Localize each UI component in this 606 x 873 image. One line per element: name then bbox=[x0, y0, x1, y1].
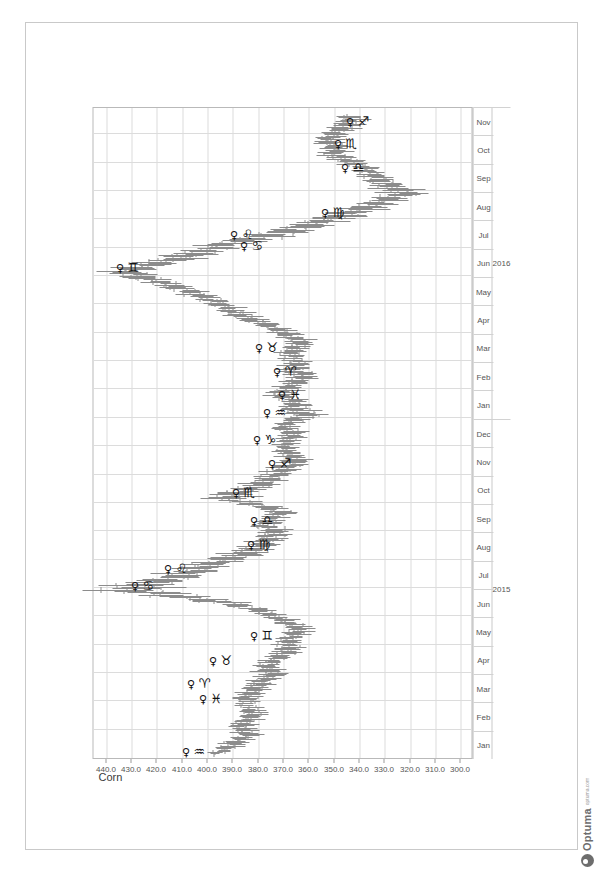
open-tick bbox=[213, 602, 214, 604]
month-tick-aug[interactable]: Aug bbox=[474, 192, 494, 220]
open-tick bbox=[416, 193, 417, 195]
astro-annotation-libra[interactable]: ♀ ♎ bbox=[250, 513, 273, 526]
venus-icon: ♀ bbox=[273, 365, 281, 378]
open-tick bbox=[390, 191, 391, 193]
open-tick bbox=[272, 480, 273, 482]
gridline bbox=[436, 108, 437, 758]
open-tick bbox=[258, 696, 259, 698]
month-label: Jan bbox=[477, 400, 490, 409]
month-label: Jun bbox=[477, 258, 490, 267]
month-tick-feb[interactable]: Feb bbox=[474, 362, 494, 390]
month-tick-feb[interactable]: Feb bbox=[474, 702, 494, 730]
price-axis-tick bbox=[105, 759, 106, 763]
open-tick bbox=[225, 751, 226, 753]
open-tick bbox=[274, 328, 275, 330]
astro-annotation-pisces[interactable]: ♀ ♓ bbox=[278, 387, 301, 400]
astro-annotation-taurus[interactable]: ♀ ♉ bbox=[255, 340, 278, 353]
open-tick bbox=[262, 506, 263, 508]
price-axis-tick bbox=[435, 759, 436, 763]
month-tick-nov[interactable]: Nov bbox=[474, 107, 494, 135]
open-tick bbox=[206, 568, 207, 570]
open-tick bbox=[294, 632, 295, 634]
open-tick bbox=[287, 426, 288, 428]
venus-icon: ♀ bbox=[209, 654, 217, 667]
open-tick bbox=[245, 695, 246, 697]
open-tick bbox=[363, 177, 364, 179]
price-axis-tick bbox=[359, 759, 360, 763]
month-tick-jun[interactable]: Jun bbox=[474, 248, 494, 276]
astro-annotation-capricorn[interactable]: ♀ ♑ bbox=[253, 432, 276, 445]
open-tick bbox=[240, 742, 241, 744]
astro-annotation-taurus[interactable]: ♀ ♉ bbox=[209, 653, 232, 666]
astro-annotation-virgo[interactable]: ♀ ♍ bbox=[247, 537, 270, 550]
open-tick bbox=[303, 377, 304, 379]
astro-annotation-sagittarius[interactable]: ♀ ♐ bbox=[268, 456, 291, 469]
zodiac-virgo-icon: ♍ bbox=[259, 536, 271, 551]
open-tick bbox=[100, 590, 101, 592]
month-tick-apr[interactable]: Apr bbox=[474, 305, 494, 333]
astro-annotation-pisces[interactable]: ♀ ♓ bbox=[199, 691, 222, 704]
astro-annotation-gemini[interactable]: ♀ ♊ bbox=[250, 628, 273, 641]
price-bar bbox=[254, 505, 283, 506]
month-tick-jul[interactable]: Jul bbox=[474, 220, 494, 248]
open-tick bbox=[294, 412, 295, 414]
open-tick bbox=[260, 323, 261, 325]
astro-annotation-libra[interactable]: ♀ ♎ bbox=[341, 160, 364, 173]
price-axis-label: 440.0 bbox=[96, 764, 116, 773]
astro-annotation-scorpio[interactable]: ♀ ♏ bbox=[232, 485, 255, 498]
open-tick bbox=[187, 597, 188, 599]
close-tick bbox=[196, 593, 197, 595]
month-tick-aug[interactable]: Aug bbox=[474, 532, 494, 560]
month-tick-jun[interactable]: Jun bbox=[474, 588, 494, 616]
open-tick bbox=[255, 690, 256, 692]
astro-annotation-sagittarius[interactable]: ♀ ♐ bbox=[346, 114, 369, 127]
month-tick-may[interactable]: May bbox=[474, 617, 494, 645]
month-tick-sep[interactable]: Sep bbox=[474, 503, 494, 531]
month-tick-apr[interactable]: Apr bbox=[474, 645, 494, 673]
open-tick bbox=[260, 477, 261, 479]
open-tick bbox=[198, 600, 199, 602]
astro-annotation-aquarius[interactable]: ♀ ♒ bbox=[182, 744, 205, 757]
month-label: Mar bbox=[477, 684, 491, 693]
month-tick-oct[interactable]: Oct bbox=[474, 135, 494, 163]
month-axis[interactable]: JanFebMarAprMayJunJulAugSepOctNovDecJanF… bbox=[473, 107, 493, 759]
price-axis-label: 360.0 bbox=[298, 764, 318, 773]
year-tick-2015[interactable]: 2015 bbox=[493, 418, 511, 758]
month-tick-may[interactable]: May bbox=[474, 277, 494, 305]
astro-annotation-leo[interactable]: ♀ ♌ bbox=[230, 227, 253, 240]
open-tick bbox=[183, 294, 184, 296]
month-tick-mar[interactable]: Mar bbox=[474, 673, 494, 701]
astro-annotation-gemini[interactable]: ♀ ♊ bbox=[116, 260, 139, 273]
close-tick bbox=[380, 194, 381, 196]
astro-annotation-virgo[interactable]: ♀ ♍ bbox=[321, 205, 344, 218]
open-tick bbox=[297, 357, 298, 359]
open-tick bbox=[168, 594, 169, 596]
month-tick-sep[interactable]: Sep bbox=[474, 163, 494, 191]
month-tick-jan[interactable]: Jan bbox=[474, 390, 494, 418]
venus-icon: ♀ bbox=[268, 457, 276, 470]
price-axis-tick bbox=[384, 759, 385, 763]
open-tick bbox=[276, 654, 277, 656]
month-tick-dec[interactable]: Dec bbox=[474, 418, 494, 446]
open-tick bbox=[319, 415, 320, 417]
month-tick-jul[interactable]: Jul bbox=[474, 560, 494, 588]
month-tick-jan[interactable]: Jan bbox=[474, 730, 494, 758]
year-tick-2016[interactable]: 2016 bbox=[493, 107, 511, 419]
open-tick bbox=[279, 353, 280, 355]
open-tick bbox=[297, 351, 298, 353]
astro-annotation-aries[interactable]: ♀ ♈ bbox=[187, 676, 210, 689]
astro-annotation-aquarius[interactable]: ♀ ♒ bbox=[263, 405, 286, 418]
astro-annotation-scorpio[interactable]: ♀ ♏ bbox=[334, 136, 357, 149]
month-tick-mar[interactable]: Mar bbox=[474, 333, 494, 361]
astro-annotation-cancer[interactable]: ♀ ♋ bbox=[131, 578, 154, 591]
open-tick bbox=[367, 168, 368, 170]
month-tick-oct[interactable]: Oct bbox=[474, 475, 494, 503]
open-tick bbox=[228, 744, 229, 746]
month-tick-nov[interactable]: Nov bbox=[474, 447, 494, 475]
astro-annotation-aries[interactable]: ♀ ♈ bbox=[273, 364, 296, 377]
plot-area[interactable]: ♀ ♒♀ ♓♀ ♈♀ ♉♀ ♊♀ ♋♀ ♌♀ ♍♀ ♎♀ ♏♀ ♐♀ ♑♀ ♒♀… bbox=[93, 107, 473, 759]
astro-annotation-leo[interactable]: ♀ ♌ bbox=[164, 561, 187, 574]
open-tick bbox=[344, 116, 345, 118]
chart-canvas[interactable]: Corn ♀ ♒♀ ♓♀ ♈♀ ♉♀ ♊♀ ♋♀ ♌♀ ♍♀ ♎♀ ♏♀ ♐♀ … bbox=[65, 69, 542, 805]
open-tick bbox=[270, 667, 271, 669]
